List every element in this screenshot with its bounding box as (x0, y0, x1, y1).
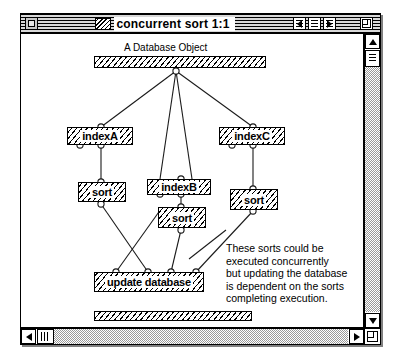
node-sort-c[interactable]: sort (230, 189, 278, 210)
titlebar-stripes-left (38, 14, 95, 33)
annotation-line-3: but updating the database (226, 267, 364, 280)
database-object-caption: A Database Object (124, 42, 207, 53)
next-button[interactable] (323, 17, 336, 30)
resize-handle[interactable] (364, 328, 380, 344)
node-indexc-label: indexC (232, 130, 271, 142)
window-titlebar[interactable]: concurrent sort 1:1 (21, 14, 380, 34)
node-update-database[interactable]: update database (94, 272, 204, 292)
horizontal-scrollbar[interactable] (21, 328, 364, 344)
screen: concurrent sort 1:1 (0, 0, 402, 361)
application-window: concurrent sort 1:1 (20, 13, 381, 345)
node-indexb[interactable]: indexB (147, 179, 211, 195)
vertical-scroll-thumb[interactable] (365, 50, 380, 67)
scroll-right-arrow[interactable] (349, 329, 364, 344)
scroll-up-arrow[interactable] (365, 34, 380, 49)
prev-button[interactable] (293, 17, 306, 30)
node-sort-a-label: sort (90, 186, 114, 198)
node-indexb-label: indexB (159, 181, 198, 193)
vertical-scroll-track[interactable] (365, 67, 380, 312)
annotation-line-5: completing execution. (226, 292, 364, 305)
node-sort-a[interactable]: sort (78, 182, 126, 202)
titlebar-stripes-right (235, 14, 292, 33)
node-sort-b-label: sort (170, 212, 194, 224)
bottom-object-bar[interactable] (94, 311, 252, 321)
node-sort-b[interactable]: sort (158, 207, 206, 228)
close-box[interactable] (25, 17, 38, 30)
zoom-button[interactable] (360, 17, 373, 30)
window-title: concurrent sort 1:1 (114, 17, 234, 31)
titlebar-stripes-end (374, 14, 380, 33)
horizontal-scroll-thumb[interactable] (37, 329, 54, 344)
window-proxy-icon (95, 18, 111, 30)
annotation-line-2: executed concurrently (226, 255, 364, 268)
scroll-down-arrow[interactable] (365, 313, 380, 328)
horizontal-scroll-track[interactable] (54, 329, 348, 344)
node-indexc[interactable]: indexC (219, 127, 285, 145)
titlebar-stripes-gap (337, 14, 359, 33)
diagram-canvas[interactable]: A Database Object indexA indexB indexC (21, 34, 364, 328)
vertical-scrollbar[interactable] (364, 34, 380, 328)
node-indexa-label: indexA (80, 130, 119, 142)
node-update-database-label: update database (105, 276, 193, 288)
annotation-text: These sorts could be executed concurrent… (226, 242, 364, 305)
node-sort-c-label: sort (242, 194, 266, 206)
annotation-line-1: These sorts could be (226, 242, 364, 255)
diagram-content: A Database Object indexA indexB indexC (21, 34, 363, 327)
database-object-bar[interactable] (94, 56, 266, 68)
annotation-line-4: is dependent on the sorts (226, 280, 364, 293)
scroll-left-arrow[interactable] (21, 329, 36, 344)
list-button[interactable] (308, 17, 321, 30)
node-indexa[interactable]: indexA (67, 127, 133, 145)
